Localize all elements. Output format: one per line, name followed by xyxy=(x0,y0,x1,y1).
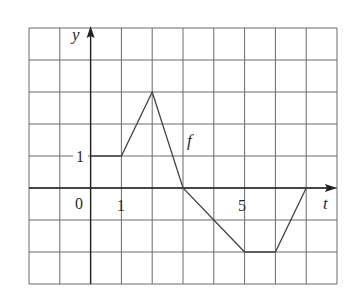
chart: y t 0 1 5 1 f xyxy=(0,0,354,299)
curve-f xyxy=(91,92,307,252)
y-tick-label-1: 1 xyxy=(76,148,84,165)
curve-label-f: f xyxy=(187,131,194,150)
x-axis-label: t xyxy=(323,194,329,213)
x-tick-label-5: 5 xyxy=(238,197,246,214)
origin-label: 0 xyxy=(75,195,83,212)
x-tick-label-1: 1 xyxy=(117,197,125,214)
y-axis-label: y xyxy=(70,25,80,44)
